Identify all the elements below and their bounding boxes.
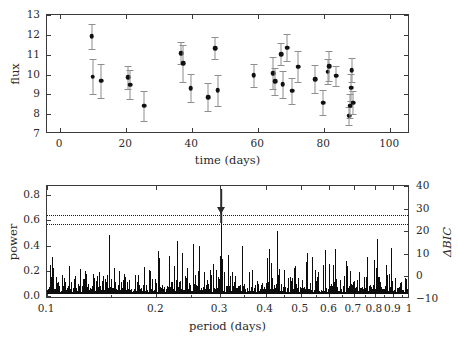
periodogram-spike bbox=[109, 235, 110, 295]
error-bar-cap-upper bbox=[179, 45, 186, 46]
flux-y-tick-right bbox=[404, 15, 408, 16]
flux-y-tick bbox=[47, 75, 51, 76]
time-x-tick-top bbox=[60, 15, 61, 19]
time-x-tick-label: 60 bbox=[251, 138, 264, 149]
power-y-tick bbox=[47, 195, 51, 196]
error-bar-cap-upper bbox=[289, 78, 296, 79]
figure-root: 78910111213020406080100 flux time (days)… bbox=[0, 0, 460, 343]
period-x-minor-tick bbox=[284, 295, 285, 298]
delta-bic-tick bbox=[404, 186, 408, 187]
flux-marker bbox=[321, 100, 326, 105]
flux-y-tick-right bbox=[404, 114, 408, 115]
period-x-tick-label: 0.6 bbox=[320, 303, 337, 314]
flux-marker bbox=[279, 52, 284, 57]
power-y-tick-label: 0.8 bbox=[12, 189, 40, 200]
delta-bic-tick-label: 30 bbox=[416, 202, 429, 213]
error-bar-cap-lower bbox=[88, 49, 95, 50]
flux-y-tick bbox=[47, 15, 51, 16]
power-y-tick-label: 0.0 bbox=[12, 290, 40, 301]
period-x-tick-top bbox=[375, 186, 376, 190]
error-bar-cap-lower bbox=[348, 82, 355, 83]
flux-marker bbox=[285, 45, 290, 50]
flux-y-tick-label: 7 bbox=[14, 128, 40, 139]
error-bar-cap-upper bbox=[270, 57, 277, 58]
period-x-tick-label: 0.4 bbox=[256, 303, 273, 314]
period-x-tick-label: 0.1 bbox=[38, 303, 55, 314]
flux-marker bbox=[313, 77, 318, 82]
delta-bic-tick bbox=[404, 276, 408, 277]
error-bar-cap-upper bbox=[205, 83, 212, 84]
delta-bic-tick-label: 0 bbox=[416, 270, 423, 281]
time-x-tick-top bbox=[192, 15, 193, 19]
error-bar-cap-upper bbox=[187, 74, 194, 75]
period-x-tick-top bbox=[393, 186, 394, 190]
significance-threshold-line bbox=[47, 224, 408, 225]
error-bar-cap-lower bbox=[349, 114, 356, 115]
error-bar-cap-lower bbox=[283, 61, 290, 62]
error-bar-cap-upper bbox=[349, 91, 356, 92]
error-bar-cap-upper bbox=[250, 64, 257, 65]
error-bar-cap-lower bbox=[324, 84, 331, 85]
error-bar-cap-upper bbox=[326, 51, 333, 52]
period-x-tick-label: 0.7 bbox=[344, 303, 361, 314]
flux-marker bbox=[273, 79, 278, 84]
power-y-axis-title: power bbox=[6, 223, 20, 259]
error-bar-cap-lower bbox=[270, 89, 277, 90]
time-x-tick-label: 20 bbox=[119, 138, 132, 149]
flux-y-tick bbox=[47, 55, 51, 56]
flux-y-tick-label: 12 bbox=[14, 29, 40, 40]
flux-marker bbox=[99, 79, 104, 84]
period-x-tick-label: 0.5 bbox=[291, 303, 308, 314]
flux-marker bbox=[128, 82, 133, 87]
power-y-tick-label: 0.2 bbox=[12, 265, 40, 276]
periodogram-spike bbox=[222, 259, 223, 295]
periodogram-spike bbox=[144, 267, 145, 295]
flux-y-tick-label: 9 bbox=[14, 88, 40, 99]
error-bar-cap-lower bbox=[295, 82, 302, 83]
periodogram-spike bbox=[312, 257, 313, 295]
error-bar-cap-lower bbox=[98, 98, 105, 99]
significance-threshold-line bbox=[47, 215, 408, 216]
time-x-tick bbox=[390, 128, 391, 132]
flux-marker bbox=[189, 86, 194, 91]
flux-marker bbox=[349, 85, 354, 90]
error-bar-cap-upper bbox=[324, 59, 331, 60]
error-bar-cap-upper bbox=[295, 51, 302, 52]
error-bar-cap-lower bbox=[312, 93, 319, 94]
time-x-tick-label: 80 bbox=[317, 138, 330, 149]
flux-y-tick bbox=[47, 114, 51, 115]
error-bar-cap-upper bbox=[278, 43, 285, 44]
error-bar-cap-lower bbox=[179, 82, 186, 83]
period-x-tick-label: 1 bbox=[406, 303, 413, 314]
error-bar-cap-lower bbox=[320, 115, 327, 116]
flux-y-tick-right bbox=[404, 35, 408, 36]
delta-bic-axis-title: ΔBIC bbox=[440, 226, 454, 256]
period-x-axis-title: period (days) bbox=[189, 319, 266, 333]
period-x-minor-tick bbox=[191, 295, 192, 298]
time-x-tick bbox=[60, 128, 61, 132]
error-bar-cap-lower bbox=[346, 125, 353, 126]
time-x-tick-top bbox=[126, 15, 127, 19]
error-bar-cap-lower bbox=[127, 99, 134, 100]
error-bar-cap-lower bbox=[141, 121, 148, 122]
periodogram-spike bbox=[367, 257, 368, 295]
time-x-tick bbox=[192, 128, 193, 132]
delta-bic-tick-label: 10 bbox=[416, 248, 429, 259]
period-x-tick-label: 0.3 bbox=[211, 303, 228, 314]
flux-marker bbox=[90, 75, 95, 80]
error-bar-cap-lower bbox=[289, 104, 296, 105]
period-x-tick-top bbox=[156, 186, 157, 190]
error-bar-cap-lower bbox=[205, 111, 212, 112]
flux-x-axis-title: time (days) bbox=[195, 153, 260, 167]
flux-marker bbox=[206, 95, 211, 100]
time-x-tick bbox=[324, 128, 325, 132]
period-x-tick-top bbox=[47, 186, 48, 190]
flux-marker bbox=[215, 88, 220, 93]
periodogram-spike bbox=[199, 246, 200, 294]
flux-marker bbox=[213, 46, 218, 51]
error-bar-cap-lower bbox=[212, 59, 219, 60]
period-x-tick-top bbox=[354, 186, 355, 190]
time-x-tick-label: 100 bbox=[379, 138, 399, 149]
period-x-minor-tick bbox=[342, 295, 343, 298]
error-bar-cap-upper bbox=[125, 66, 132, 67]
